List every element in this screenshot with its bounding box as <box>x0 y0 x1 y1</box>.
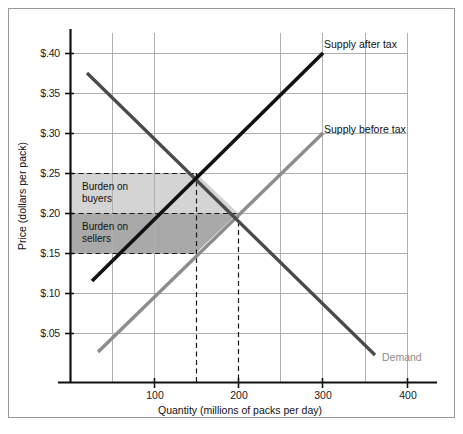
ytick-label-005: $.05 <box>20 327 60 339</box>
burden-on-buyers-line2: buyers <box>82 193 128 205</box>
x-axis-title: Quantity (millions of packs per day) <box>90 404 390 416</box>
ytick-label-010: $.10 <box>20 287 60 299</box>
figure-container: $.40 $.35 $.30 $.25 $.20 $.15 $.10 $.05 … <box>0 0 463 434</box>
ytick-label-035: $.35 <box>20 87 60 99</box>
curve-label-supply-after-tax: Supply after tax <box>324 38 397 50</box>
deadweight-upper-wedge <box>196 173 238 213</box>
supply-demand-chart <box>0 0 463 434</box>
deadweight-lower-wedge <box>196 213 238 253</box>
burden-on-buyers-label: Burden on buyers <box>82 181 128 204</box>
burden-on-sellers-line1: Burden on <box>82 221 128 233</box>
burden-on-sellers-line2: sellers <box>82 233 128 245</box>
xtick-label-300: 300 <box>301 389 345 401</box>
xtick-label-100: 100 <box>133 389 177 401</box>
xtick-label-200: 200 <box>217 389 261 401</box>
burden-on-buyers-line1: Burden on <box>82 181 128 193</box>
xtick-label-400: 400 <box>386 389 430 401</box>
y-axis-title: Price (dollars per pack) <box>16 136 28 256</box>
ytick-label-040: $.40 <box>20 47 60 59</box>
burden-on-sellers-label: Burden on sellers <box>82 221 128 244</box>
curve-label-supply-before-tax: Supply before tax <box>324 123 406 135</box>
curve-label-demand: Demand <box>382 351 422 363</box>
